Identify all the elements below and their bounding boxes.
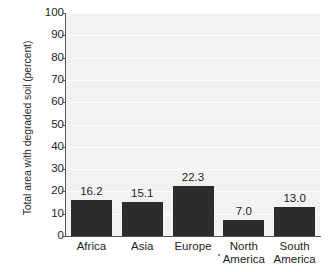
bar (223, 220, 264, 236)
y-axis-tick-label: 80 (32, 52, 64, 64)
bar-value-label: 13.0 (265, 192, 325, 204)
bar-value-label: 7.0 (214, 205, 274, 217)
gridline (66, 125, 320, 126)
x-axis-line (65, 236, 321, 237)
gridline (66, 169, 320, 170)
y-axis-tick-mark (62, 13, 66, 14)
y-axis-tick-mark (62, 80, 66, 81)
y-axis-tick-label: 90 (32, 30, 64, 42)
gridline (66, 58, 320, 59)
y-axis-tick-label: 20 (32, 186, 64, 198)
y-axis-tick-labels: 0102030405060708090100 (32, 0, 64, 272)
gridline (66, 80, 320, 81)
x-axis-category-label-line: South (280, 240, 310, 252)
gridline (66, 13, 320, 14)
y-axis-tick-mark (62, 35, 66, 36)
bar-value-label: 15.1 (112, 187, 172, 199)
gridline (66, 35, 320, 36)
y-axis-tick-mark (62, 236, 66, 237)
gridline (66, 102, 320, 103)
bar (122, 202, 163, 236)
y-axis-tick-label: 100 (32, 7, 64, 19)
y-axis-tick-mark (62, 169, 66, 170)
gridline (66, 147, 320, 148)
y-axis-tick-mark (62, 125, 66, 126)
y-axis-tick-label: 70 (32, 74, 64, 86)
y-axis-tick-mark (62, 58, 66, 59)
y-axis-tick-label: 30 (32, 163, 64, 175)
bar (274, 207, 315, 236)
y-axis-tick-label: 60 (32, 96, 64, 108)
y-axis-tick-mark (62, 102, 66, 103)
y-axis-tick-mark (62, 147, 66, 148)
x-axis-category-label: SouthAmerica (255, 240, 332, 266)
y-axis-tick-label: 10 (32, 208, 64, 220)
x-axis-category-label-line: America (255, 253, 332, 266)
x-axis-category-label-line: Asia (131, 240, 153, 252)
y-axis-tick-label: 40 (32, 141, 64, 153)
bar (71, 200, 112, 236)
bar-chart-figure: Total area with degraded soil (percent) … (0, 0, 332, 272)
bar-value-label: 22.3 (163, 171, 223, 183)
y-axis-tick-label: 50 (32, 119, 64, 131)
y-axis-tick-mark (62, 214, 66, 215)
bar (173, 186, 214, 236)
